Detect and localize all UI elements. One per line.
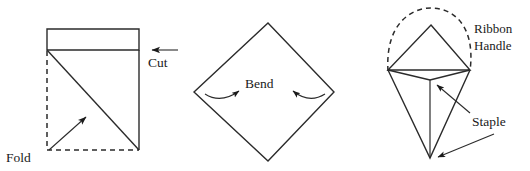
paper-diagonal-edge [47, 50, 139, 150]
kite-upper-body [388, 25, 470, 70]
kite-lower-body [388, 70, 470, 158]
ribbon-handle-arc [388, 8, 471, 71]
staple-leader-lower [438, 134, 494, 157]
paper-top-strip [47, 29, 139, 50]
panel-ribbon-staple: Ribbon Handle Staple [388, 8, 513, 158]
bend-arrow-left [205, 91, 239, 98]
diagram-canvas: Cut Fold Bend [0, 0, 530, 171]
center-seam-v [388, 70, 470, 80]
ribbon-label: Ribbon [474, 21, 513, 36]
fold-arrow [49, 117, 86, 150]
fold-label: Fold [6, 150, 31, 165]
cut-label: Cut [148, 55, 168, 70]
bend-label: Bend [245, 76, 274, 91]
staple-leader-upper [437, 85, 470, 113]
handle-label: Handle [474, 38, 512, 53]
panel-cut-fold: Cut Fold [6, 29, 178, 165]
panel-bend: Bend [194, 23, 334, 161]
instructional-fold-diagram: Cut Fold Bend [0, 0, 530, 171]
diamond-shape [194, 23, 334, 161]
staple-label: Staple [472, 114, 506, 129]
bend-arrow-right [293, 91, 325, 98]
